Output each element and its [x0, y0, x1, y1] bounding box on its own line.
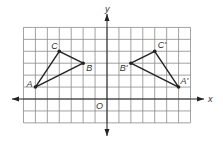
vertex-label: C' [158, 40, 166, 50]
vertex-point [34, 85, 38, 89]
vertex-label: A' [180, 76, 189, 86]
y-axis-label: y [104, 4, 110, 14]
coordinate-plane-figure: xyOABCA'B'C' [0, 0, 223, 142]
vertex-point [57, 49, 61, 53]
origin-label: O [96, 101, 103, 111]
vertex-point [81, 61, 85, 65]
vertex-point [129, 61, 133, 65]
vertex-label: A [25, 79, 32, 89]
vertex-label: C [51, 41, 58, 51]
x-axis-right-arrow-icon [197, 97, 204, 102]
x-axis-label: x [207, 94, 213, 104]
x-axis-left-arrow-icon [12, 97, 19, 102]
vertex-label: B [86, 63, 92, 73]
y-axis-down-arrow-icon [105, 129, 110, 136]
y-axis-up-arrow-icon [105, 14, 110, 21]
vertex-point [153, 49, 157, 53]
vertex-label: B' [120, 63, 128, 73]
